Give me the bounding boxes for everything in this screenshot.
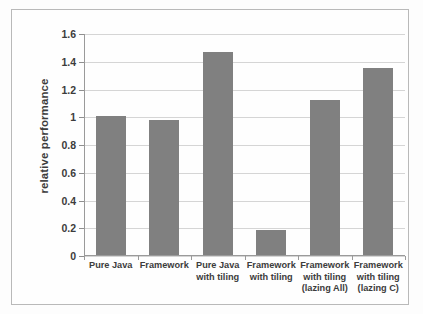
gridline xyxy=(84,201,405,202)
y-tick-label: 1 xyxy=(70,111,76,123)
gridline xyxy=(84,62,405,63)
bar-chart-figure: relative performance 00.20.40.60.811.21.… xyxy=(0,0,423,314)
plot-area: 00.20.40.60.811.21.41.6 Pure JavaFramewo… xyxy=(84,34,405,256)
x-label-line: Framework xyxy=(138,260,192,272)
x-label-line: with tiling xyxy=(191,272,245,284)
bar xyxy=(96,116,126,255)
y-tick-label: 1.2 xyxy=(61,84,76,96)
y-axis-title: relative performance xyxy=(38,36,50,236)
figure-frame: relative performance 00.20.40.60.811.21.… xyxy=(11,9,409,305)
y-axis-line xyxy=(84,34,85,256)
x-label-line: Framework xyxy=(245,260,299,272)
bar xyxy=(363,68,393,255)
y-tick-label: 0.2 xyxy=(61,222,76,234)
x-axis-label: Pure Javawith tiling xyxy=(191,260,245,283)
y-tick-label: 0.4 xyxy=(61,195,76,207)
x-axis-label: Frameworkwith tiling(lazing C) xyxy=(352,260,406,295)
y-tick-label: 0.8 xyxy=(61,139,76,151)
x-label-line: (lazing C) xyxy=(352,283,406,295)
y-tick-label: 0.6 xyxy=(61,167,76,179)
x-label-line: Pure Java xyxy=(191,260,245,272)
x-label-line: with tiling xyxy=(352,272,406,284)
x-tick-mark xyxy=(405,256,406,260)
x-label-line: Pure Java xyxy=(84,260,138,272)
x-label-line: with tiling xyxy=(245,272,299,284)
x-label-line: Framework xyxy=(298,260,352,272)
y-tick-label: 1.6 xyxy=(61,28,76,40)
bar xyxy=(149,120,179,255)
x-label-line: Framework xyxy=(352,260,406,272)
y-tick-label: 1.4 xyxy=(61,56,76,68)
gridline xyxy=(84,173,405,174)
x-label-line: with tiling xyxy=(298,272,352,284)
x-label-line: (lazing All) xyxy=(298,283,352,295)
x-axis-label: Frameworkwith tiling(lazing All) xyxy=(298,260,352,295)
gridline xyxy=(84,228,405,229)
gridline xyxy=(84,34,405,35)
x-axis-label: Pure Java xyxy=(84,260,138,272)
x-axis-label: Framework xyxy=(138,260,192,272)
gridline xyxy=(84,117,405,118)
bar xyxy=(203,52,233,255)
bar xyxy=(310,100,340,255)
gridline xyxy=(84,145,405,146)
x-axis-label: Frameworkwith tiling xyxy=(245,260,299,283)
gridline xyxy=(84,90,405,91)
bar xyxy=(256,230,286,255)
y-tick-label: 0 xyxy=(70,250,76,262)
